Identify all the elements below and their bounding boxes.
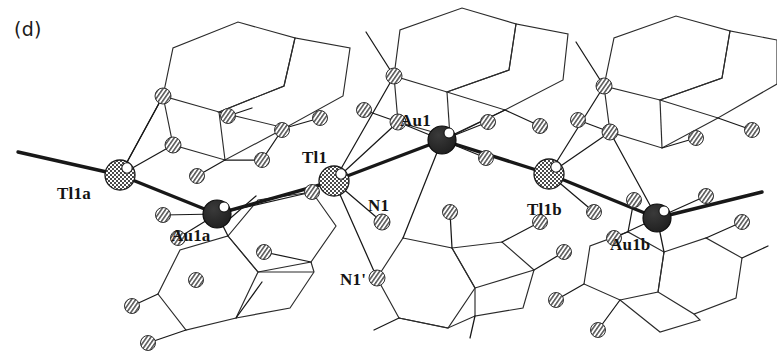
- atom-label-au1b: Au1b: [610, 235, 651, 255]
- ligand-ring-outlines: [158, 8, 777, 332]
- atom-tl1: [319, 166, 349, 196]
- thallium-atoms: [105, 159, 564, 196]
- atom-au1: [428, 126, 456, 154]
- nitrogen-bonds: [120, 32, 768, 343]
- atom-tl1b: [534, 159, 564, 189]
- atom-label-tl1b: Tl1b: [527, 200, 562, 220]
- atom-tl1a: [105, 160, 135, 190]
- atom-label-tl1a: Tl1a: [57, 184, 91, 204]
- atom-au1b: [643, 204, 671, 232]
- atom-label-tl1: Tl1: [302, 148, 327, 168]
- structure-drawing: [0, 0, 777, 358]
- crystal-structure-figure: (d): [0, 0, 777, 358]
- atom-au1a: [203, 200, 231, 228]
- atom-label-n1: N1: [368, 196, 389, 216]
- atom-label-au1a: Au1a: [171, 226, 211, 246]
- atom-label-au1: Au1: [400, 111, 431, 131]
- atom-label-n1-prime: N1': [340, 270, 366, 290]
